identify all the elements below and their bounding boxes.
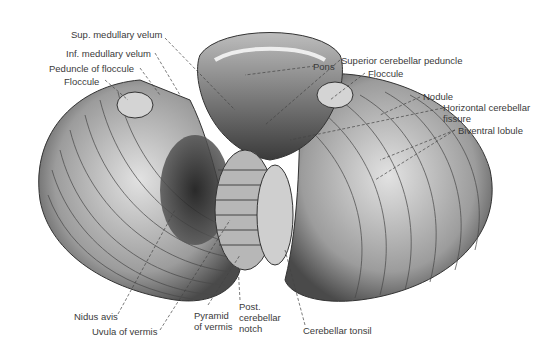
label-nodule: Nodule xyxy=(423,91,453,102)
label-nidus-avis: Nidus avis xyxy=(74,311,118,322)
label-peduncle-of-floccule: Peduncle of floccule xyxy=(49,63,134,74)
label-floccule-left: Floccule xyxy=(64,76,99,87)
label-sup-medullary-velum: Sup. medullary velum xyxy=(71,29,162,40)
vermis xyxy=(215,150,293,270)
right-floccule xyxy=(317,82,353,108)
label-biventral-lobule: Biventral lobule xyxy=(458,125,523,136)
label-pons: Pons xyxy=(313,61,335,72)
left-floccule xyxy=(117,92,153,118)
label-post-cerebellar-notch: Post. cerebellar notch xyxy=(239,301,281,334)
label-pyramid-of-vermis: Pyramid of vermis xyxy=(194,310,233,332)
label-superior-cerebellar-peduncle: Superior cerebellar peduncle xyxy=(341,55,462,66)
label-inf-medullary-velum: Inf. medullary velum xyxy=(66,48,151,59)
label-horizontal-cerebellar-fissure: Horizontal cerebellar fissure xyxy=(443,102,530,124)
label-uvula-of-vermis: Uvula of vermis xyxy=(92,326,157,337)
label-cerebellar-tonsil: Cerebellar tonsil xyxy=(303,325,372,336)
label-floccule-right: Floccule xyxy=(368,68,403,79)
